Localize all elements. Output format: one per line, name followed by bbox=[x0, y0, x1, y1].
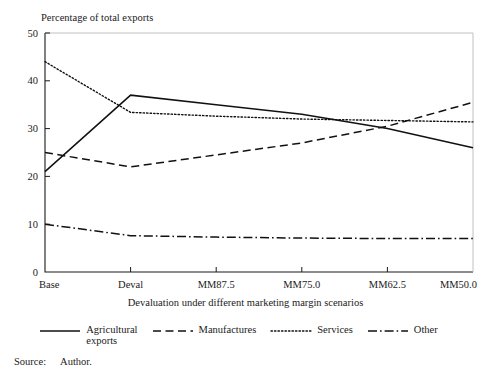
svg-text:30: 30 bbox=[28, 123, 39, 134]
legend-item-agricultural-exports[interactable]: Agricultural exports bbox=[39, 325, 137, 346]
legend-label-manufactures: Manufactures bbox=[199, 324, 257, 335]
x-axis-ticks: BaseDevalMM87.5MM75.0MM62.5MM50.0 bbox=[39, 267, 477, 290]
svg-text:Deval: Deval bbox=[118, 279, 143, 290]
chart-figure: Percentage of total exports 01020304050 … bbox=[0, 0, 491, 378]
legend-swatch-agricultural-exports-icon bbox=[39, 325, 81, 337]
svg-text:MM75.0: MM75.0 bbox=[283, 279, 320, 290]
x-axis-title: Devaluation under different marketing ma… bbox=[0, 297, 491, 308]
line-chart-plot: 01020304050 BaseDevalMM87.5MM75.0MM62.5M… bbox=[0, 0, 491, 300]
series-line-agricultural-exports bbox=[45, 95, 473, 171]
source-note: Source: Author. bbox=[14, 356, 92, 367]
svg-text:0: 0 bbox=[33, 267, 38, 278]
svg-text:MM87.5: MM87.5 bbox=[198, 279, 235, 290]
legend-swatch-services-icon bbox=[270, 325, 312, 337]
chart-axes bbox=[45, 33, 473, 272]
svg-text:50: 50 bbox=[28, 28, 39, 39]
svg-text:10: 10 bbox=[28, 219, 39, 230]
legend-item-other[interactable]: Other bbox=[367, 325, 438, 337]
legend-label-agricultural-exports: Agricultural exports bbox=[86, 324, 137, 346]
legend-label-other: Other bbox=[414, 324, 438, 335]
series-line-services bbox=[45, 62, 473, 122]
legend-item-manufactures[interactable]: Manufactures bbox=[152, 325, 257, 337]
source-label: Source: bbox=[14, 356, 46, 367]
legend-item-services[interactable]: Services bbox=[270, 325, 353, 337]
legend-swatch-other-icon bbox=[367, 325, 409, 337]
source-value: Author. bbox=[60, 356, 92, 367]
svg-text:20: 20 bbox=[28, 171, 39, 182]
series-line-manufactures bbox=[45, 102, 473, 167]
svg-text:40: 40 bbox=[28, 75, 39, 86]
chart-series bbox=[45, 62, 473, 239]
legend-label-services: Services bbox=[317, 324, 353, 335]
series-line-other bbox=[45, 224, 473, 238]
chart-legend: Agricultural exportsManufacturesServices… bbox=[0, 325, 491, 346]
svg-text:Base: Base bbox=[39, 279, 60, 290]
svg-text:MM62.5: MM62.5 bbox=[369, 279, 406, 290]
legend-swatch-manufactures-icon bbox=[152, 325, 194, 337]
svg-text:MM50.0: MM50.0 bbox=[440, 279, 477, 290]
